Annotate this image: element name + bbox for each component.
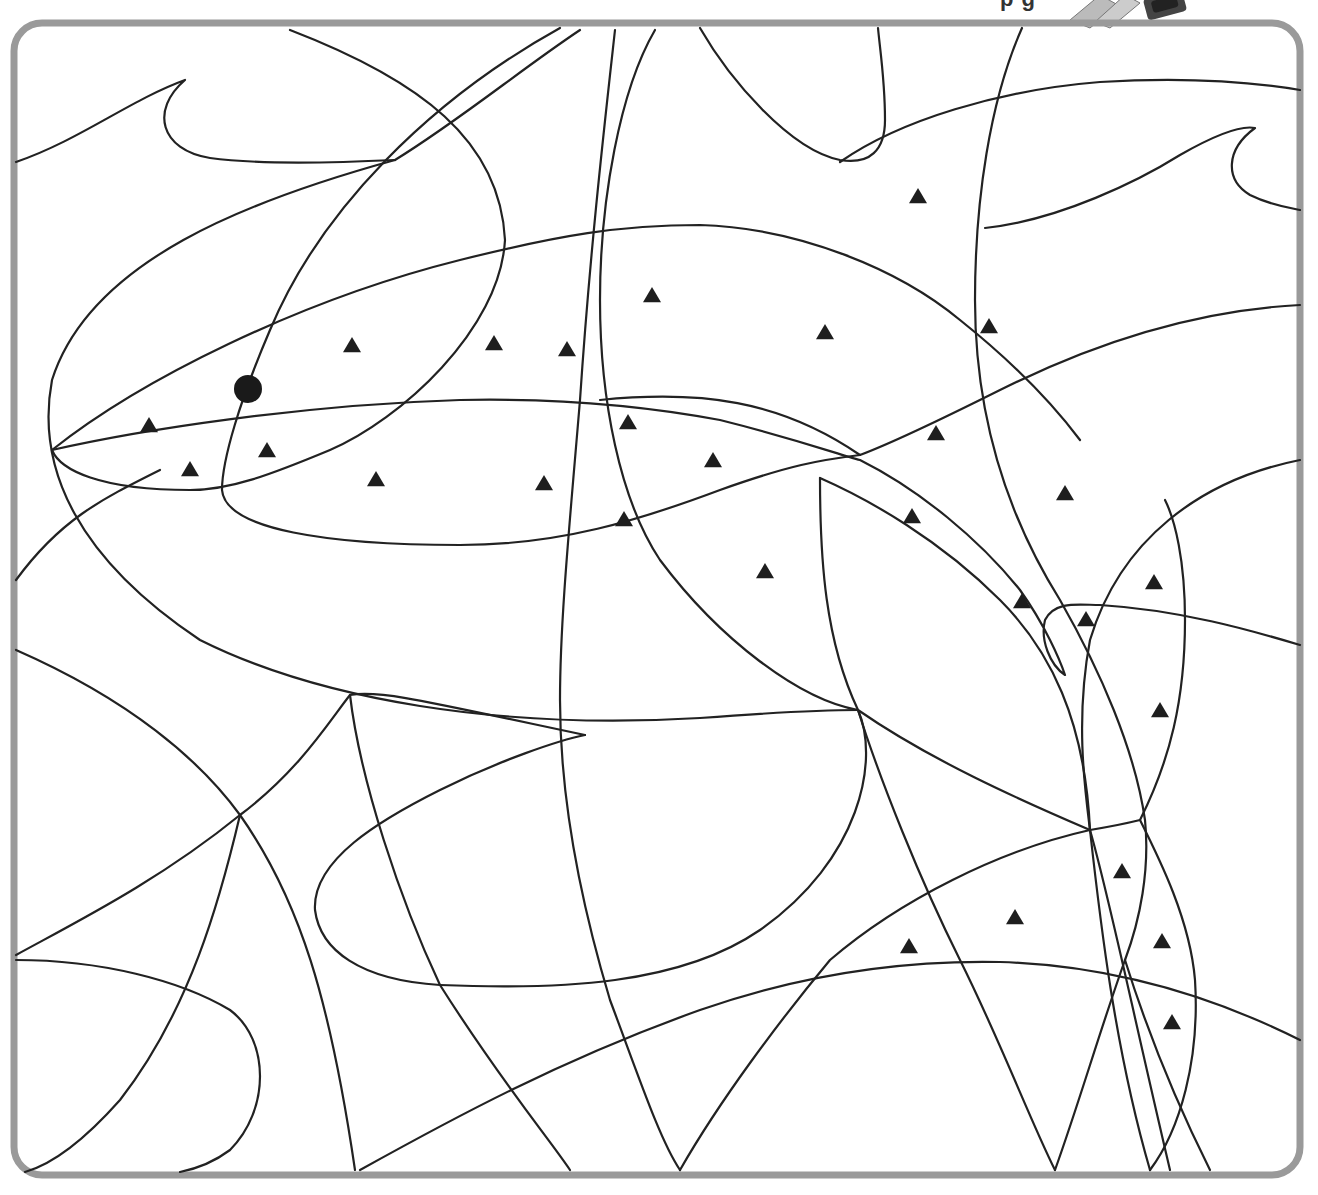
triangle-marker-icon: [927, 425, 945, 440]
triangle-marker-icon: [909, 188, 927, 203]
triangle-marker-icon: [615, 511, 633, 526]
triangle-marker-icon: [343, 337, 361, 352]
triangle-marker-icon: [558, 341, 576, 356]
triangle-marker-icon: [1006, 909, 1024, 924]
triangle-marker-icon: [1113, 863, 1131, 878]
triangle-marker-icon: [704, 452, 722, 467]
triangle-marker-icon: [367, 471, 385, 486]
triangle-marker-icon: [535, 475, 553, 490]
triangle-marker-icon: [1151, 702, 1169, 717]
triangle-marker-icon: [643, 287, 661, 302]
triangle-marker-icon: [900, 938, 918, 953]
triangle-marker-icon: [1163, 1014, 1181, 1029]
triangle-marker-icon: [816, 324, 834, 339]
triangle-marker-icon: [1056, 485, 1074, 500]
triangle-marker-icon: [1145, 574, 1163, 589]
triangle-marker-icon: [980, 318, 998, 333]
puzzle-lines: [16, 28, 1300, 1172]
triangle-marker-icon: [619, 414, 637, 429]
triangle-marker-icon: [181, 461, 199, 476]
start-dot: [234, 375, 262, 403]
coloring-canvas: [0, 0, 1318, 1195]
triangle-marker-icon: [140, 417, 158, 432]
triangle-marker-icon: [485, 335, 503, 350]
triangle-marker-icon: [1153, 933, 1171, 948]
triangle-marker-icon: [1077, 611, 1095, 626]
triangle-marker-icon: [903, 508, 921, 523]
triangle-marker-icon: [258, 442, 276, 457]
triangle-marker-icon: [756, 563, 774, 578]
